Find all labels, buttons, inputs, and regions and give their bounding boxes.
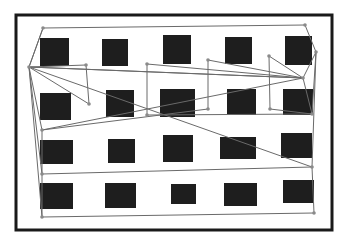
path-node — [41, 26, 45, 30]
black-square — [108, 139, 135, 163]
black-square — [40, 183, 73, 209]
black-square — [171, 184, 196, 204]
path-node — [40, 128, 44, 132]
path-node — [84, 63, 88, 67]
black-square — [40, 140, 73, 164]
path-node — [87, 102, 91, 106]
path-node — [301, 76, 305, 80]
black-square — [163, 35, 191, 64]
path-node — [145, 113, 149, 117]
black-square — [40, 93, 71, 120]
black-square — [283, 180, 314, 203]
black-square — [225, 37, 252, 64]
black-square — [163, 135, 193, 162]
black-square — [281, 133, 312, 158]
path-node — [206, 58, 210, 62]
path-node — [40, 172, 44, 176]
path-node — [206, 107, 210, 111]
black-square — [227, 89, 256, 115]
path-node — [314, 50, 318, 54]
path-node — [268, 107, 272, 111]
black-square — [224, 183, 257, 206]
path-node — [303, 23, 307, 27]
path-node — [312, 211, 316, 215]
path-node — [27, 65, 31, 69]
black-square — [40, 38, 69, 66]
grid-path-diagram — [0, 0, 344, 242]
diagram-figure — [0, 0, 344, 242]
path-node — [310, 165, 314, 169]
black-square — [285, 36, 312, 65]
black-square — [220, 137, 256, 159]
black-square — [105, 183, 136, 208]
path-node — [310, 112, 314, 116]
black-square — [102, 39, 128, 66]
path-node — [145, 62, 149, 66]
path-node — [40, 215, 44, 219]
path-node — [267, 54, 271, 58]
